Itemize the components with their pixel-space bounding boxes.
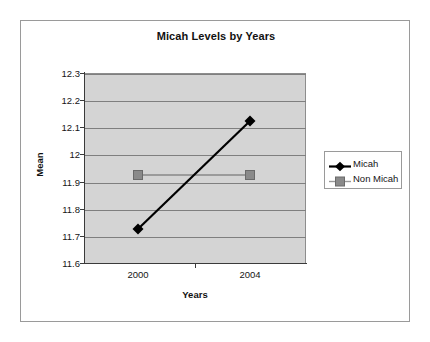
y-tick-label: 11.6 (36, 259, 80, 269)
y-tick-label: 11.8 (36, 205, 80, 215)
data-point-marker (246, 171, 255, 180)
chart-legend: Micah Non Micah (324, 151, 402, 189)
x-tick-label: 2000 (108, 270, 168, 280)
legend-marker-square-icon (328, 173, 352, 184)
x-tick-mark (195, 264, 196, 268)
series-layer (84, 73, 306, 263)
legend-entry-micah[interactable]: Micah (328, 156, 398, 171)
legend-label: Non Micah (352, 174, 398, 184)
legend-entry-non-micah[interactable]: Non Micah (328, 171, 398, 186)
x-axis-title: Years (84, 289, 306, 300)
y-tick-label: 11.7 (36, 232, 80, 242)
chart-frame: Micah Levels by Years 12.3 12.2 12.1 12 … (20, 20, 410, 322)
data-point-marker (134, 171, 143, 180)
y-axis-title: Mean (34, 135, 45, 195)
legend-label: Micah (352, 159, 378, 169)
y-tick-mark (80, 263, 84, 264)
y-tick-label: 12.1 (36, 123, 80, 133)
legend-marker-diamond-icon (328, 158, 352, 169)
x-tick-label: 2004 (220, 270, 280, 280)
y-tick-label: 12.3 (36, 69, 80, 79)
y-tick-label: 12.2 (36, 96, 80, 106)
